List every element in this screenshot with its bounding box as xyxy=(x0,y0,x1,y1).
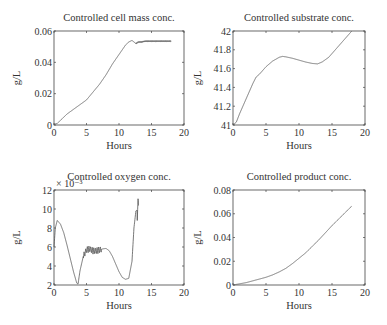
y-tick-label: 0.06 xyxy=(214,208,232,219)
x-tick-label: 10 xyxy=(294,287,304,298)
x-axis-label: Hours xyxy=(286,300,312,311)
chart-title: Controlled substrate conc. xyxy=(244,12,354,23)
x-tick-label: 15 xyxy=(147,127,157,138)
x-tick-label: 15 xyxy=(327,287,337,298)
y-tick-label: 2 xyxy=(47,280,52,291)
y-tick-label: 0 xyxy=(226,280,231,291)
data-line xyxy=(233,206,352,285)
axes-frame xyxy=(233,31,365,125)
y-axis-label: g/L xyxy=(11,230,22,245)
x-tick-label: 0 xyxy=(52,127,57,138)
x-tick-label: 20 xyxy=(179,127,189,138)
data-line xyxy=(233,31,352,125)
data-line xyxy=(54,199,138,284)
y-tick-label: 0.02 xyxy=(35,88,53,99)
x-tick-label: 20 xyxy=(360,287,370,298)
y-tick-label: 0.02 xyxy=(214,256,232,267)
y-axis-label: g/L xyxy=(192,230,203,245)
y-tick-label: 4 xyxy=(47,261,52,272)
y-tick-label: 42 xyxy=(221,26,231,37)
y-tick-label: 41.2 xyxy=(214,101,232,112)
y-tick-label: 41.6 xyxy=(214,63,232,74)
x-axis-label: Hours xyxy=(106,140,132,151)
y-tick-label: 10 xyxy=(42,204,52,215)
y-tick-label: 0.04 xyxy=(214,232,232,243)
x-tick-label: 15 xyxy=(327,127,337,138)
chart-title: Controlled product conc. xyxy=(247,171,352,182)
x-tick-label: 20 xyxy=(360,127,370,138)
x-axis-label: Hours xyxy=(106,300,132,311)
x-tick-label: 10 xyxy=(114,287,124,298)
subplot-substrate: Controlled substrate conc.051015204141.2… xyxy=(192,12,370,151)
y-exponent-label: × 10⁻³ xyxy=(56,178,82,189)
x-tick-label: 10 xyxy=(294,127,304,138)
x-tick-label: 10 xyxy=(114,127,124,138)
x-tick-label: 0 xyxy=(231,287,236,298)
y-tick-label: 12 xyxy=(42,185,52,196)
x-tick-label: 15 xyxy=(147,287,157,298)
y-axis-label: g/L xyxy=(11,71,22,86)
x-tick-label: 0 xyxy=(52,287,57,298)
y-tick-label: 0 xyxy=(47,120,52,131)
x-tick-label: 5 xyxy=(264,127,269,138)
y-tick-label: 41 xyxy=(221,120,231,131)
axes-frame xyxy=(54,31,184,125)
x-tick-label: 20 xyxy=(179,287,189,298)
subplot-cell-mass: Controlled cell mass conc.0510152000.020… xyxy=(11,12,189,151)
chart-title: Controlled oxygen conc. xyxy=(67,171,171,182)
y-tick-label: 8 xyxy=(47,223,52,234)
y-tick-label: 0.04 xyxy=(35,57,53,68)
x-tick-label: 5 xyxy=(264,287,269,298)
subplot-product: Controlled product conc.0510152000.020.0… xyxy=(192,171,370,311)
axes-frame xyxy=(233,190,365,285)
y-tick-label: 6 xyxy=(47,242,52,253)
x-tick-label: 0 xyxy=(231,127,236,138)
x-tick-label: 5 xyxy=(84,287,89,298)
y-tick-label: 41.4 xyxy=(214,82,232,93)
y-tick-label: 41.8 xyxy=(214,44,232,55)
x-tick-label: 5 xyxy=(84,127,89,138)
x-axis-label: Hours xyxy=(286,140,312,151)
y-axis-label: g/L xyxy=(192,71,203,86)
chart-title: Controlled cell mass conc. xyxy=(63,12,174,23)
subplot-oxygen: Controlled oxygen conc.0510152024681012×… xyxy=(11,171,189,311)
figure: Controlled cell mass conc.0510152000.020… xyxy=(0,0,387,325)
data-line xyxy=(54,40,171,124)
y-tick-label: 0.06 xyxy=(35,26,53,37)
y-tick-label: 0.08 xyxy=(214,185,232,196)
